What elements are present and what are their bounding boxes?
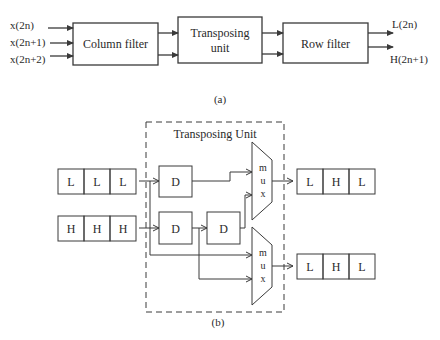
- output-register-1: L H L: [297, 169, 375, 194]
- mux-letter: m: [259, 247, 267, 258]
- register-cell: L: [306, 175, 313, 189]
- register-cell: H: [332, 260, 341, 274]
- mux-letter: u: [261, 175, 266, 186]
- delay-label: D: [171, 175, 180, 189]
- transposing-unit-label-2: unit: [211, 41, 230, 55]
- mux-letter: x: [261, 273, 266, 284]
- input-label-x2n1: x(2n+1): [10, 36, 46, 49]
- register-cell: L: [358, 175, 365, 189]
- mux-letter: m: [259, 162, 267, 173]
- register-cell: L: [306, 260, 313, 274]
- wires: [139, 172, 293, 279]
- column-filter-label: Column filter: [83, 37, 148, 51]
- row-filter-label: Row filter: [301, 37, 350, 51]
- mux-letter: x: [261, 188, 266, 199]
- part-b: Transposing Unit L L L H H H D D D m u x…: [58, 122, 375, 329]
- output-label-H2n1: H(2n+1): [390, 53, 428, 66]
- register-cell: H: [332, 175, 341, 189]
- part-a: x(2n) x(2n+1) x(2n+2) Column filter Tran…: [10, 17, 428, 106]
- register-cell: L: [358, 260, 365, 274]
- register-cell: H: [67, 222, 76, 236]
- input-label-x2n: x(2n): [10, 19, 34, 32]
- input-register-L: L L L: [58, 169, 136, 194]
- delay-label: D: [219, 222, 228, 236]
- caption-b: (b): [212, 316, 225, 329]
- diagram-canvas: x(2n) x(2n+1) x(2n+2) Column filter Tran…: [0, 0, 440, 340]
- register-cell: L: [67, 175, 74, 189]
- output-label-L2n: L(2n): [392, 18, 417, 31]
- output-register-2: L H L: [297, 254, 375, 279]
- delay-label: D: [171, 222, 180, 236]
- transposing-unit-block: [178, 17, 262, 63]
- register-cell: H: [93, 222, 102, 236]
- input-register-H: H H H: [58, 216, 136, 241]
- mux-letter: u: [261, 260, 266, 271]
- register-cell: H: [119, 222, 128, 236]
- input-label-x2n2: x(2n+2): [10, 53, 46, 66]
- caption-a: (a): [214, 93, 227, 106]
- transposing-unit-title: Transposing Unit: [173, 127, 257, 141]
- register-cell: L: [119, 175, 126, 189]
- register-cell: L: [93, 175, 100, 189]
- transposing-unit-label-1: Transposing: [191, 26, 250, 40]
